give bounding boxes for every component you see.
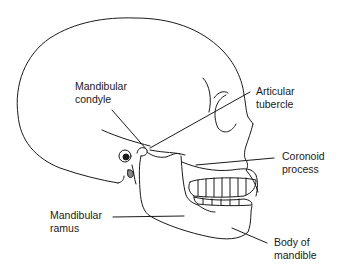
label-coronoid-process: Coronoid process	[282, 150, 325, 176]
skull-diagram: Mandibular condyle Articular tubercle Co…	[0, 0, 341, 267]
label-body-of-mandible: Body of mandible	[274, 236, 317, 262]
label-mandibular-condyle: Mandibular condyle	[75, 80, 127, 106]
label-text-line1: Body of	[274, 236, 317, 249]
label-text-line1: Mandibular	[50, 209, 102, 222]
label-text-line2: mandible	[274, 249, 317, 262]
label-text-line1: Mandibular	[75, 80, 127, 93]
label-mandibular-ramus: Mandibular ramus	[50, 209, 102, 235]
label-text-line2: tubercle	[256, 98, 295, 111]
label-text-line2: ramus	[50, 222, 102, 235]
label-articular-tubercle: Articular tubercle	[256, 85, 295, 111]
label-text-line2: process	[282, 163, 325, 176]
label-text-line1: Coronoid	[282, 150, 325, 163]
label-text-line2: condyle	[75, 93, 127, 106]
label-text-line1: Articular	[256, 85, 295, 98]
